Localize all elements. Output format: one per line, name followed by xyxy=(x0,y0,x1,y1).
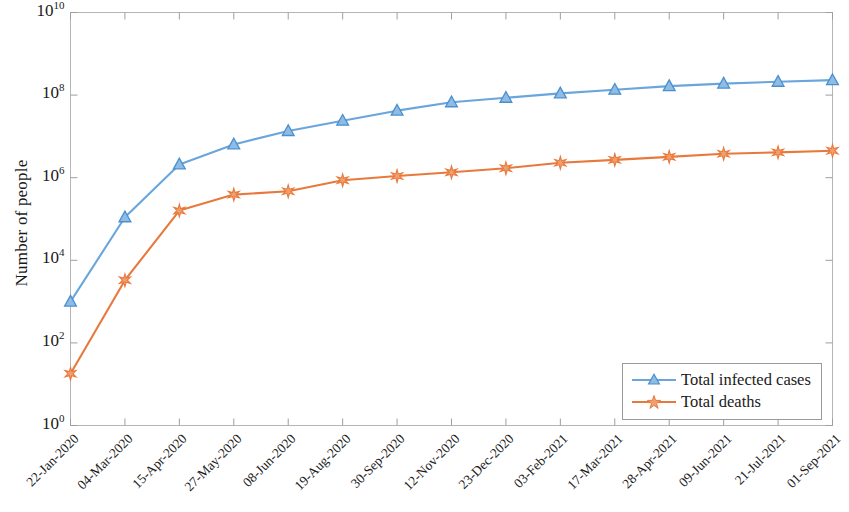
y-tick-label: 100 xyxy=(42,414,65,434)
legend-item-total-infected-cases: Total infected cases xyxy=(631,369,811,391)
y-tick-label: 102 xyxy=(42,331,65,351)
legend-item-total-deaths: Total deaths xyxy=(631,391,811,413)
legend-key-infected xyxy=(631,371,677,389)
legend-label-deaths: Total deaths xyxy=(681,392,761,412)
data-point-marker xyxy=(65,367,76,380)
legend-label-infected: Total infected cases xyxy=(681,370,811,390)
y-tick-label: 1010 xyxy=(37,1,65,21)
legend-key-deaths xyxy=(631,393,677,411)
y-tick-label: 106 xyxy=(42,166,65,186)
y-tick-label: 108 xyxy=(42,83,65,103)
series-line xyxy=(71,151,833,374)
series-total-infected-cases xyxy=(65,74,839,306)
series-layer xyxy=(65,74,839,380)
series-total-deaths xyxy=(65,144,838,380)
series-line xyxy=(71,80,833,301)
y-axis-title: Number of people xyxy=(12,143,32,303)
y-tick-label: 104 xyxy=(42,248,65,268)
legend: Total infected cases Total deaths xyxy=(622,363,822,420)
covid-log-line-chart: Number of people 1010108106104102100 22-… xyxy=(0,0,849,512)
